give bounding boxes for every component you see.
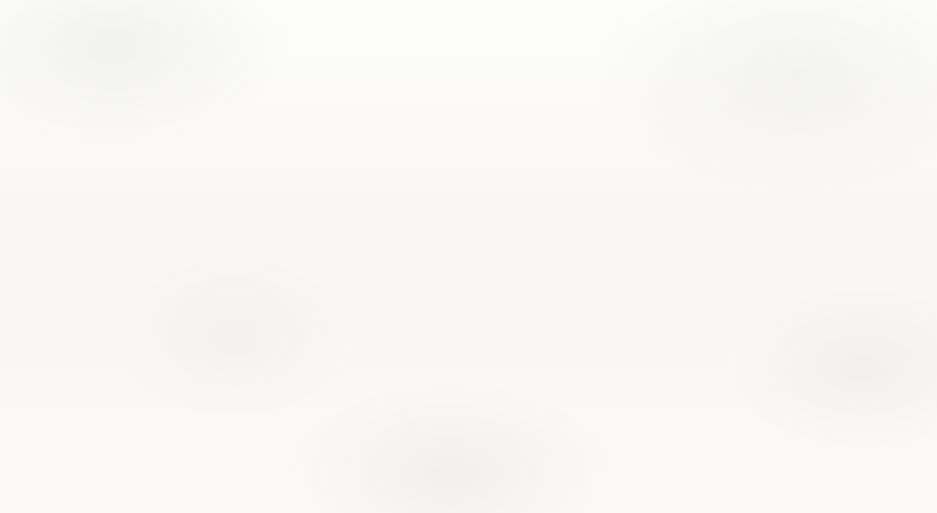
legend-swatch-relu xyxy=(714,388,719,406)
legend-label-convolution: Convolution xyxy=(621,422,673,433)
legend-label-sigmoid-activation: Sigmoid Activation xyxy=(497,444,577,455)
legend-label-group-normalization: Group normalization xyxy=(729,362,817,373)
legend-label-relu-activation: Relu Activation xyxy=(729,392,794,403)
legend-label-average-pooling: Average Pooling xyxy=(621,362,693,373)
legend-swatch-groupnorm xyxy=(714,358,719,376)
legend-swatch-dropout xyxy=(714,418,719,436)
legend-swatch-avgpool xyxy=(606,358,611,376)
legend-swatch-sigmoid xyxy=(482,440,487,458)
legend-label-concatenation: Concatenation xyxy=(497,362,560,373)
legend-swatches-svg xyxy=(0,0,937,513)
legend-label-upsampling: Upsampling xyxy=(621,392,673,403)
legend-swatch-upsampling xyxy=(606,388,611,406)
legend-swatch-convolution xyxy=(606,418,611,436)
legend-swatch-maxpooling xyxy=(482,388,487,406)
legend-label-maxpooling: MaxPooling xyxy=(497,392,548,403)
legend-label-dropout: Dropout xyxy=(729,422,764,433)
legend-label-input: Input xyxy=(497,422,519,433)
legend-swatch-input xyxy=(482,418,487,436)
legend-swatch-concatenation xyxy=(482,358,487,376)
diagram-canvas: Input Image 224x224x3 Segmented Cup 224x… xyxy=(0,0,937,513)
